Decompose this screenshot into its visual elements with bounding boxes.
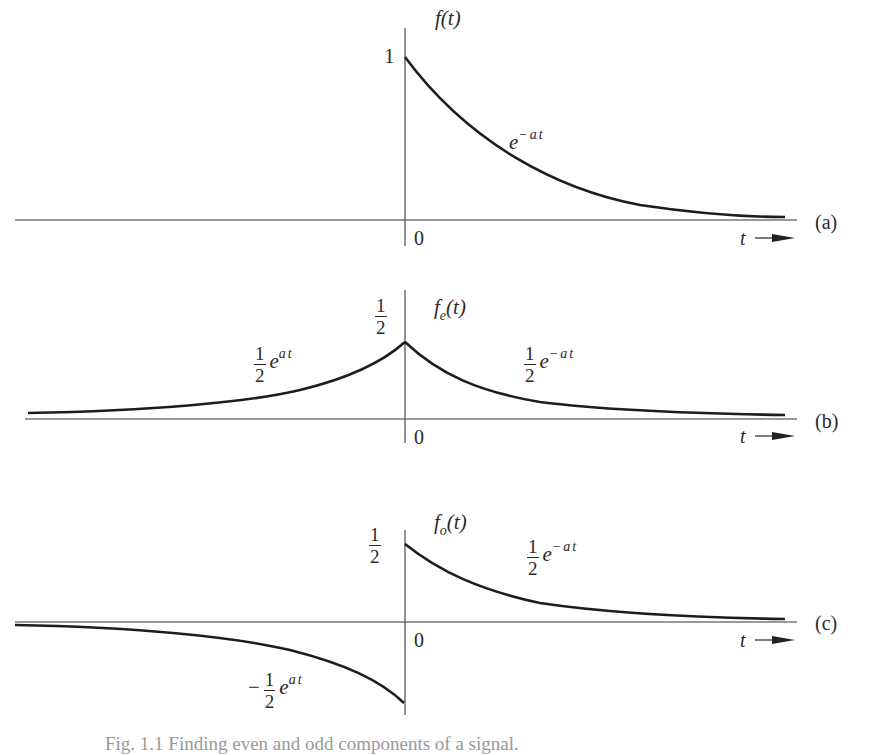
exponent: −at [549, 346, 575, 361]
panel-a-peak-label: 1 [384, 46, 395, 67]
panel-b-curve-left [28, 342, 405, 413]
numerator: 1 [524, 344, 536, 365]
numerator: 1 [527, 537, 539, 558]
denominator: 2 [376, 317, 386, 337]
panel-c-left-curve-label: − 12 eat [248, 670, 304, 711]
panel-c-t-label: t [740, 630, 746, 650]
panel-c-origin-label: 0 [414, 630, 424, 650]
panel-b-left-curve-label: 12 eat [254, 344, 294, 385]
base: e [543, 542, 552, 566]
panel-c-label: (c) [815, 613, 837, 633]
minus-sign: − [248, 675, 260, 699]
numerator: 1 [369, 525, 381, 546]
panel-b-origin-label: 0 [414, 427, 424, 447]
panel-a-t-arrow-head [772, 234, 795, 242]
base: e [540, 349, 549, 373]
panel-b-function-label: fe(t) [434, 297, 466, 323]
panel-b-plot [25, 290, 797, 443]
coefficient: 12 [254, 344, 266, 385]
denominator: 2 [370, 546, 380, 566]
panel-c-peak-label: 12 [369, 525, 381, 566]
panel-b-t-arrow-head [772, 432, 795, 440]
function-arg: (t) [441, 6, 461, 30]
denominator: 2 [255, 365, 265, 385]
base: e [270, 349, 279, 373]
panel-b-curve-right [405, 342, 785, 415]
panel-b-label: (b) [815, 411, 838, 431]
panel-c-plot [15, 530, 797, 715]
numerator: 1 [375, 296, 387, 317]
panel-a-function-label: f(t) [435, 8, 461, 29]
exponent: at [279, 346, 294, 361]
panel-b-right-curve-label: 12 e−at [524, 344, 575, 385]
panel-a-plot [15, 28, 797, 246]
exponent: −at [552, 539, 578, 554]
numerator: 1 [254, 344, 266, 365]
figure-caption: Fig. 1.1 Finding even and odd components… [105, 733, 519, 755]
base: e [279, 675, 288, 699]
panel-c-t-arrow-head [772, 636, 795, 644]
exponent: −at [518, 127, 544, 142]
panel-b-t-label: t [740, 426, 746, 446]
fraction: 12 [369, 525, 381, 566]
panel-a-t-label: t [740, 228, 746, 248]
panel-c-curve-left [15, 625, 404, 703]
fraction: 12 [375, 296, 387, 337]
panel-c-curve-right [405, 544, 785, 619]
panel-a-curve-label: e−at [509, 128, 545, 153]
function-arg: (t) [446, 295, 466, 319]
exponent: at [289, 672, 304, 687]
coefficient: 12 [264, 670, 276, 711]
denominator: 2 [265, 691, 275, 711]
panel-b-peak-label: 12 [375, 296, 387, 337]
panel-a-origin-label: 0 [414, 228, 424, 248]
panel-c-right-curve-label: 12 e−at [527, 537, 578, 578]
panel-c-function-label: fo(t) [434, 512, 467, 538]
coefficient: 12 [524, 344, 536, 385]
coefficient: 12 [527, 537, 539, 578]
denominator: 2 [528, 558, 538, 578]
function-subscript: o [440, 523, 447, 538]
denominator: 2 [525, 365, 535, 385]
function-arg: (t) [447, 510, 467, 534]
panel-a-curve [405, 57, 785, 217]
numerator: 1 [264, 670, 276, 691]
base: e [509, 130, 518, 154]
panel-a-label: (a) [815, 212, 837, 232]
